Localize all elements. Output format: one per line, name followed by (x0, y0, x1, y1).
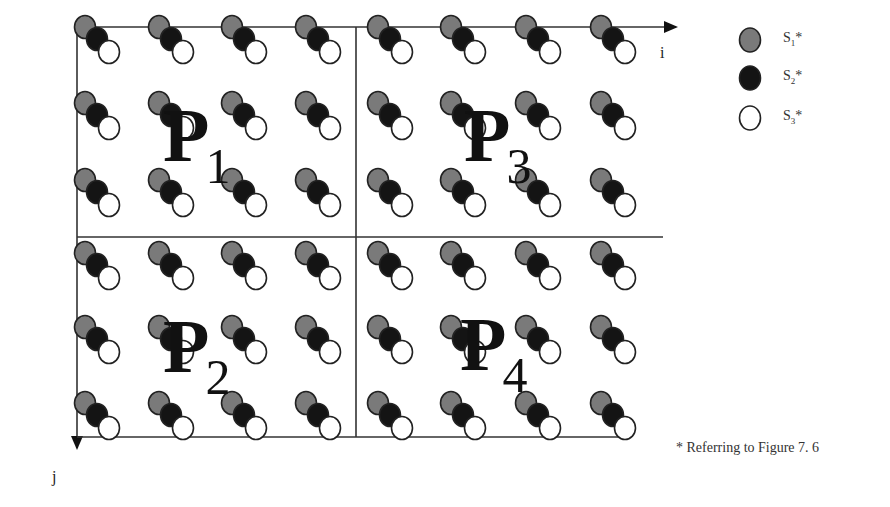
s3-circle (540, 417, 561, 440)
s3-circle (320, 41, 341, 64)
s3-circle (392, 117, 413, 140)
s3-circle (99, 341, 120, 364)
s3-circle (246, 117, 267, 140)
s3-circle (540, 194, 561, 217)
s3-circle (99, 41, 120, 64)
s3-circle (392, 267, 413, 290)
molecule (75, 316, 120, 364)
molecule-grid (75, 16, 636, 440)
legend-s1-icon (740, 28, 761, 52)
molecule (222, 242, 267, 290)
s3-circle (540, 41, 561, 64)
footnote: * Referring to Figure 7. 6 (676, 440, 819, 456)
s3-circle (246, 194, 267, 217)
s3-circle (615, 41, 636, 64)
s3-circle (246, 341, 267, 364)
legend-item-s2: S2* (769, 68, 802, 86)
s3-circle (320, 417, 341, 440)
molecule (296, 392, 341, 440)
s3-circle (615, 417, 636, 440)
molecule (516, 242, 561, 290)
s3-circle (320, 194, 341, 217)
molecule (75, 92, 120, 140)
s3-circle (246, 417, 267, 440)
molecule (441, 242, 486, 290)
s3-circle (615, 267, 636, 290)
molecule (368, 92, 413, 140)
molecule (591, 316, 636, 364)
s3-circle (540, 341, 561, 364)
partition-label-p3: P3 (464, 97, 535, 173)
s3-circle (99, 417, 120, 440)
s3-circle (99, 267, 120, 290)
s3-circle (540, 267, 561, 290)
s3-circle (320, 117, 341, 140)
s3-circle (320, 267, 341, 290)
molecule (441, 16, 486, 64)
s3-circle (246, 41, 267, 64)
j-axis-label: j (52, 468, 56, 486)
s3-circle (392, 41, 413, 64)
s3-circle (465, 417, 486, 440)
legend-item-s3: S3* (769, 108, 802, 126)
molecule (441, 392, 486, 440)
s3-circle (615, 194, 636, 217)
s3-circle (392, 341, 413, 364)
molecule (368, 392, 413, 440)
partition-label-p4: P4 (460, 306, 531, 382)
s3-circle (173, 417, 194, 440)
molecule (149, 16, 194, 64)
legend-label-s3: S3* (783, 108, 802, 126)
molecule (591, 169, 636, 217)
molecule (296, 169, 341, 217)
molecule (368, 316, 413, 364)
legend-label-s1: S1* (783, 30, 802, 48)
s3-circle (173, 194, 194, 217)
partition-label-p1: P1 (163, 97, 234, 173)
molecule (75, 242, 120, 290)
s3-circle (615, 341, 636, 364)
s3-circle (320, 341, 341, 364)
molecule (591, 16, 636, 64)
s3-circle (99, 117, 120, 140)
s3-circle (540, 117, 561, 140)
molecule (591, 392, 636, 440)
s3-circle (392, 194, 413, 217)
molecule (296, 92, 341, 140)
legend-symbols (740, 28, 761, 130)
s3-circle (173, 41, 194, 64)
molecule (75, 16, 120, 64)
molecule (591, 92, 636, 140)
molecule (296, 16, 341, 64)
s3-circle (465, 267, 486, 290)
molecule (75, 392, 120, 440)
molecule (591, 242, 636, 290)
molecule (296, 242, 341, 290)
molecule (368, 169, 413, 217)
s3-circle (392, 417, 413, 440)
molecule (75, 169, 120, 217)
molecule (296, 316, 341, 364)
partition-diagram (0, 0, 890, 507)
molecule (149, 242, 194, 290)
legend-label-s2: S2* (783, 68, 802, 86)
s3-circle (99, 194, 120, 217)
legend-item-s1: S1* (769, 30, 802, 48)
s3-circle (173, 267, 194, 290)
s3-circle (615, 117, 636, 140)
s3-circle (246, 267, 267, 290)
s3-circle (465, 194, 486, 217)
molecule (516, 16, 561, 64)
i-axis-label: i (660, 44, 664, 62)
s3-circle (465, 41, 486, 64)
molecule (368, 16, 413, 64)
partition-label-p2: P2 (163, 308, 234, 384)
legend-s3-icon (740, 106, 761, 130)
molecule (149, 392, 194, 440)
molecule (368, 242, 413, 290)
molecule (222, 16, 267, 64)
legend-s2-icon (740, 66, 761, 90)
